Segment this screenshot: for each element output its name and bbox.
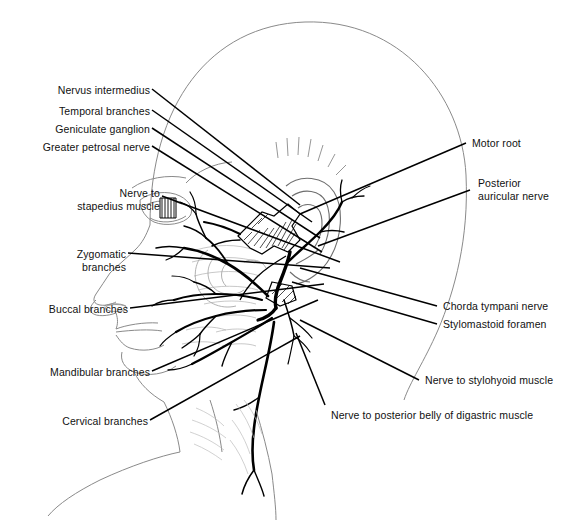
leader-lines-right [292, 143, 470, 405]
label-stylomastoid-foramen: Stylomastoid foramen [443, 318, 547, 331]
label-buccal-branches: Buccal branches [49, 303, 128, 316]
label-nerve-to-posterior-belly-of-digastric-muscle: Nerve to posterior belly of digastric mu… [331, 409, 533, 422]
neck-shading [190, 400, 262, 474]
label-nerve-to-stapedius-muscle: Nerve to stapedius muscle [77, 187, 160, 213]
label-line-2: branches [77, 261, 126, 274]
label-line-2: stapedius muscle [77, 200, 160, 213]
label-chorda-tympani-nerve: Chorda tympani nerve [443, 300, 548, 313]
label-cervical-branches: Cervical branches [62, 415, 148, 428]
label-nerve-to-stylohyoid-muscle: Nerve to stylohyoid muscle [425, 374, 553, 387]
label-geniculate-ganglion: Geniculate ganglion [55, 123, 150, 136]
label-line-1: Zygomatic [77, 248, 126, 261]
label-line-1: Posterior [478, 177, 549, 190]
facial-canal-hatched [238, 204, 300, 254]
label-line-2: auricular nerve [478, 190, 549, 203]
label-motor-root: Motor root [472, 137, 521, 150]
label-zygomatic-branches: Zygomatic branches [77, 248, 126, 274]
face-profile [90, 273, 176, 402]
mastoid-process-hatched [266, 282, 296, 306]
label-greater-petrosal-nerve: Greater petrosal nerve [43, 141, 150, 154]
hairline-tufts [276, 137, 346, 175]
leader-lines-left [128, 89, 340, 420]
label-line-1: Nerve to [77, 187, 160, 200]
label-nervus-intermedius: Nervus intermedius [58, 84, 150, 97]
label-temporal-branches: Temporal branches [59, 105, 150, 118]
label-posterior-auricular-nerve: Posterior auricular nerve [478, 177, 549, 203]
label-mandibular-branches: Mandibular branches [50, 366, 150, 379]
